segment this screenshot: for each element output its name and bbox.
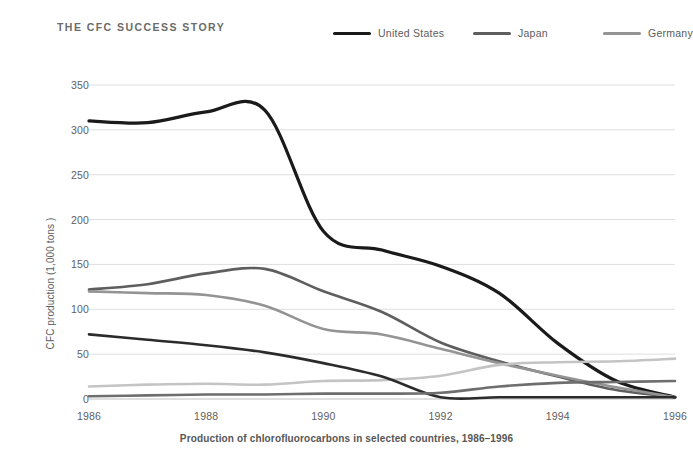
x-tick-label: 1994 <box>546 410 570 422</box>
x-tick-label: 1986 <box>77 410 101 422</box>
chart-container: THE CFC SUCCESS STORY United StatesJapan… <box>0 0 693 455</box>
y-axis-title-wrap: CFC production (1,000 tons ) <box>28 100 29 300</box>
chart-caption: Production of chlorofluorocarbons in sel… <box>0 433 693 444</box>
y-axis-title: CFC production (1,000 tons ) <box>45 199 56 369</box>
x-tick-label: 1988 <box>194 410 218 422</box>
x-tick-label: 1990 <box>311 410 335 422</box>
x-axis-ticks: 198619881990199219941996 <box>0 0 693 455</box>
x-tick-label: 1992 <box>429 410 453 422</box>
x-tick-label: 1996 <box>663 410 687 422</box>
